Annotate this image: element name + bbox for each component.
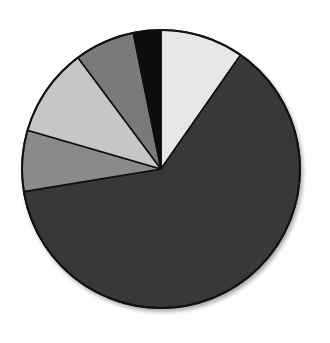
pie-chart: [0, 0, 330, 343]
pie-slices: [22, 30, 300, 308]
pie-chart-svg: [0, 0, 330, 343]
